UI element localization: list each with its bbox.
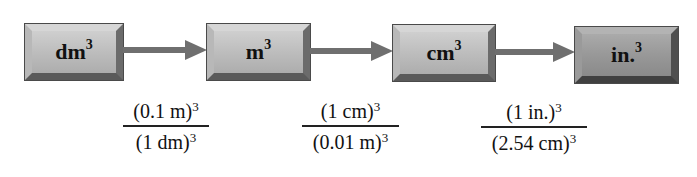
denominator-text: (1 dm) — [136, 131, 190, 153]
arrow-shaft — [123, 47, 187, 53]
conversion-factor-dm3-m3: (0.1 m)3 (1 dm)3 — [123, 99, 209, 154]
numerator-exponent: 3 — [555, 100, 562, 115]
arrow-head-icon — [371, 41, 393, 61]
unit-base: cm — [426, 40, 454, 65]
arrow-m3-to-cm3 — [310, 41, 394, 61]
unit-box-m3: m3 — [207, 24, 310, 80]
denominator-text: (0.01 m) — [313, 131, 382, 153]
unit-exponent: 3 — [86, 37, 93, 52]
fraction-bar — [302, 125, 399, 127]
unit-label-cm3: cm3 — [426, 42, 461, 64]
denominator-exponent: 3 — [382, 130, 389, 145]
unit-exponent: 3 — [635, 40, 642, 55]
fraction-bar — [123, 125, 209, 127]
unit-base: m — [246, 39, 264, 64]
unit-label-dm3: dm3 — [55, 41, 93, 63]
conversion-factor-cm3-in3: (1 in.)3 (2.54 cm)3 — [481, 100, 587, 155]
arrow-cm3-to-in3 — [495, 42, 576, 62]
arrow-head-icon — [553, 42, 575, 62]
fraction-denominator: (2.54 cm)3 — [492, 131, 576, 155]
unit-exponent: 3 — [264, 37, 271, 52]
unit-base: in. — [611, 42, 635, 67]
fraction-bar — [481, 126, 587, 128]
denominator-exponent: 3 — [570, 131, 577, 146]
fraction-numerator: (0.1 m)3 — [133, 99, 198, 123]
conversion-factor-m3-cm3: (1 cm)3 (0.01 m)3 — [302, 99, 399, 154]
arrow-head-icon — [185, 40, 207, 60]
arrow-shaft — [495, 49, 555, 55]
fraction-numerator: (1 in.)3 — [506, 100, 561, 124]
fraction-numerator: (1 cm)3 — [321, 99, 380, 123]
numerator-exponent: 3 — [192, 99, 199, 114]
unit-exponent: 3 — [455, 38, 462, 53]
fraction-denominator: (0.01 m)3 — [313, 130, 388, 154]
denominator-text: (2.54 cm) — [492, 132, 570, 154]
arrow-shaft — [310, 48, 373, 54]
unit-base: dm — [55, 39, 86, 64]
unit-conversion-diagram: dm3 m3 cm3 in.3 (0.1 m)3 (1 dm)3 — [0, 0, 697, 177]
numerator-text: (1 in.) — [506, 101, 555, 123]
denominator-exponent: 3 — [190, 130, 197, 145]
unit-label-m3: m3 — [246, 41, 271, 63]
numerator-exponent: 3 — [374, 99, 381, 114]
unit-box-in3: in.3 — [575, 27, 678, 83]
unit-box-dm3: dm3 — [25, 24, 123, 80]
unit-label-in3: in.3 — [611, 44, 642, 66]
numerator-text: (1 cm) — [321, 100, 374, 122]
fraction-denominator: (1 dm)3 — [136, 130, 196, 154]
arrow-dm3-to-m3 — [123, 40, 208, 60]
numerator-text: (0.1 m) — [133, 100, 192, 122]
unit-box-cm3: cm3 — [393, 25, 495, 81]
